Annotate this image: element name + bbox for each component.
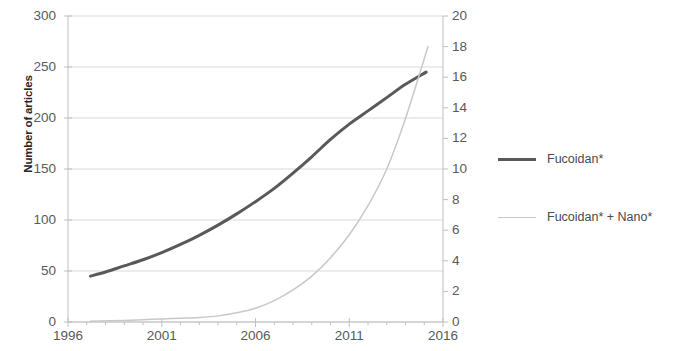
y-tick-label-right: 0	[452, 315, 486, 329]
legend-line-icon-primary	[498, 158, 536, 161]
y-tick-label-left: 0	[22, 315, 56, 329]
chart-legend: Fucoidan* Fucoidan* + Nano*	[498, 130, 675, 246]
series-line-fucoidan-nano	[91, 47, 429, 322]
y-tick-label-right: 20	[452, 9, 486, 23]
y-tick-label-right: 10	[452, 162, 486, 176]
y-tick-label-right: 16	[452, 70, 486, 84]
legend-line-icon-secondary	[498, 217, 536, 218]
x-tick-label: 2016	[413, 328, 473, 343]
x-tick-label: 2006	[226, 328, 286, 343]
legend-label-secondary: Fucoidan* + Nano*	[547, 210, 652, 224]
y-tick-label-right: 2	[452, 284, 486, 298]
y-tick-label-left: 250	[22, 60, 56, 74]
legend-item-fucoidan-nano: Fucoidan* + Nano*	[498, 188, 675, 246]
legend-label-primary: Fucoidan*	[547, 152, 603, 166]
y-tick-label-right: 18	[452, 40, 486, 54]
y-tick-label-right: 4	[452, 254, 486, 268]
y-tick-label-right: 14	[452, 101, 486, 115]
chart-figure: Number of articles 050100150200250300 02…	[0, 0, 675, 351]
y-tick-label-left: 100	[22, 213, 56, 227]
y-tick-label-right: 8	[452, 193, 486, 207]
y-tick-label-left: 300	[22, 9, 56, 23]
y-tick-label-left: 200	[22, 111, 56, 125]
y-tick-label-left: 150	[22, 162, 56, 176]
x-tick-label: 2001	[132, 328, 192, 343]
series-line-fucoidan	[91, 72, 427, 276]
legend-item-fucoidan: Fucoidan*	[498, 130, 675, 188]
y-tick-label-left: 50	[22, 264, 56, 278]
y-tick-label-right: 12	[452, 131, 486, 145]
y-tick-label-right: 6	[452, 223, 486, 237]
x-tick-label: 1996	[38, 328, 98, 343]
x-tick-label: 2011	[319, 328, 379, 343]
